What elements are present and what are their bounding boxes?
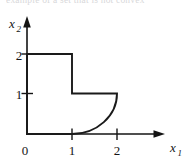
x-axis-label-subscript: 1 — [178, 148, 183, 158]
y-axis-label-subscript: 2 — [17, 24, 22, 34]
y-axis-label: x — [8, 16, 15, 31]
x-tick-label-2: 2 — [114, 143, 121, 158]
right-arrow-icon — [154, 130, 166, 138]
x-axis-label: x — [169, 140, 176, 155]
y-tick-label-1: 1 — [16, 87, 23, 102]
x-tick-label-0: 0 — [22, 143, 29, 158]
plot-canvas: 2 1 0 1 2 x 2 x 1 — [0, 0, 192, 163]
figure-container: example of a set that is not convex 2 1 … — [0, 0, 192, 163]
region-boundary-path — [27, 54, 117, 134]
x-tick-label-1: 1 — [69, 143, 76, 158]
up-arrow-icon — [23, 16, 31, 28]
y-tick-label-2: 2 — [16, 48, 23, 63]
